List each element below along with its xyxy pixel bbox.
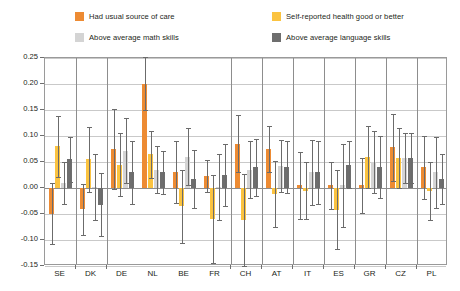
error-bar-CZ-series3 — [411, 133, 412, 183]
error-bar-cap-lower — [81, 235, 86, 236]
error-bar-cap-lower — [112, 189, 117, 190]
legend-item[interactable]: Above average language skills — [272, 29, 390, 46]
error-bar-cap-upper — [192, 150, 197, 151]
x-axis-tick-label-CH: CH — [230, 269, 261, 278]
error-bar-cap-upper — [112, 109, 117, 110]
x-axis-tick-label-FR: FR — [199, 269, 230, 278]
error-bar-DK-series1 — [89, 127, 90, 193]
y-axis-tick-label: 0.05 — [2, 157, 38, 165]
error-bar-cap-upper — [155, 146, 160, 147]
x-axis-tick-label-GR: GR — [354, 269, 385, 278]
legend-swatch-dark-gray — [272, 33, 281, 42]
group-separator — [386, 58, 387, 264]
x-axis-tick-label-NL: NL — [137, 269, 168, 278]
error-bar-cap-lower — [273, 227, 278, 228]
error-bar-BE-series0 — [176, 141, 177, 202]
error-bar-cap-lower — [155, 193, 160, 194]
legend-item[interactable]: Had usual source of care — [75, 8, 175, 25]
error-bar-cap-upper — [335, 170, 340, 171]
y-axis-tick-mark — [40, 265, 44, 266]
error-bar-ES-series3 — [349, 141, 350, 188]
error-bar-cap-lower — [68, 182, 73, 183]
error-bar-cap-upper — [236, 115, 241, 116]
error-bar-DE-series1 — [120, 133, 121, 195]
error-bar-cap-lower — [143, 110, 148, 111]
error-bar-NL-series0 — [145, 57, 146, 110]
error-bar-cap-lower — [242, 266, 247, 267]
error-bar-cap-upper — [124, 118, 129, 119]
group-separator — [262, 58, 263, 264]
x-axis-tick-mark — [354, 265, 355, 269]
error-bar-cap-upper — [347, 141, 352, 142]
error-bar-cap-lower — [130, 204, 135, 205]
error-bar-cap-lower — [335, 249, 340, 250]
error-bar-GR-series0 — [362, 158, 363, 213]
error-bar-AT-series0 — [269, 126, 270, 173]
error-bar-cap-upper — [273, 161, 278, 162]
error-bar-SE-series1 — [58, 116, 59, 176]
error-bar-cap-upper — [93, 154, 98, 155]
error-bar-cap-upper — [391, 114, 396, 115]
error-bar-ES-series2 — [343, 144, 344, 227]
error-bar-FR-series3 — [225, 144, 226, 206]
error-bar-cap-upper — [68, 137, 73, 138]
error-bar-cap-upper — [428, 162, 433, 163]
error-bar-cap-lower — [99, 236, 104, 237]
error-bar-cap-lower — [180, 243, 185, 244]
legend-item-label: Had usual source of care — [89, 12, 175, 21]
error-bar-cap-upper — [56, 116, 61, 117]
error-bar-NL-series2 — [157, 146, 158, 193]
error-bar-CH-series3 — [256, 139, 257, 196]
error-bar-cap-lower — [285, 193, 290, 194]
error-bar-GR-series1 — [368, 126, 369, 188]
error-bar-cap-lower — [161, 194, 166, 195]
error-bar-PL-series2 — [436, 137, 437, 208]
error-bar-GR-series3 — [380, 136, 381, 198]
y-axis-tick-label: 0.00 — [2, 183, 38, 191]
error-bar-IT-series0 — [300, 152, 301, 220]
error-bar-FR-series1 — [213, 175, 214, 263]
error-bar-DK-series0 — [83, 184, 84, 235]
error-bar-cap-upper — [87, 127, 92, 128]
legend-swatch-yellow — [272, 12, 281, 21]
group-separator — [293, 58, 294, 264]
y-axis-tick-label: 0.25 — [2, 53, 38, 61]
error-bar-GR-series2 — [374, 131, 375, 193]
error-bar-BE-series2 — [188, 128, 189, 185]
error-bar-cap-lower — [93, 220, 98, 221]
legend-item-label: Self-reported health good or better — [286, 12, 404, 21]
error-bar-cap-upper — [149, 131, 154, 132]
error-bar-cap-lower — [428, 220, 433, 221]
legend-item-label: Above average math skills — [89, 33, 179, 42]
y-axis-tick-label: -0.05 — [2, 209, 38, 217]
legend-item[interactable]: Self-reported health good or better — [272, 8, 404, 25]
group-separator — [417, 58, 418, 264]
error-bar-cap-upper — [403, 133, 408, 134]
error-bar-cap-lower — [360, 213, 365, 214]
error-bar-cap-upper — [217, 154, 222, 155]
error-bar-cap-lower — [211, 263, 216, 264]
legend-item[interactable]: Above average math skills — [75, 29, 179, 46]
x-axis-tick-mark — [261, 265, 262, 269]
error-bar-NL-series1 — [151, 131, 152, 178]
error-bar-cap-upper — [378, 136, 383, 137]
legend-swatch-light-gray — [75, 33, 84, 42]
error-bar-cap-lower — [366, 188, 371, 189]
x-axis-tick-label-DK: DK — [75, 269, 106, 278]
error-bar-IT-series3 — [318, 141, 319, 203]
error-bar-cap-upper — [310, 140, 315, 141]
error-bar-CH-series2 — [250, 141, 251, 198]
chart-root: Had usual source of careSelf-reported he… — [0, 0, 460, 291]
error-bar-cap-upper — [434, 137, 439, 138]
error-bar-SE-series2 — [64, 162, 65, 204]
error-bar-cap-lower — [50, 244, 55, 245]
error-bar-cap-lower — [298, 219, 303, 220]
legend-swatch-orange — [75, 12, 84, 21]
error-bar-cap-lower — [440, 204, 445, 205]
error-bar-cap-lower — [267, 172, 272, 173]
error-bar-SE-series0 — [52, 183, 53, 244]
y-axis-tick-label: -0.10 — [2, 235, 38, 243]
error-bar-cap-lower — [434, 208, 439, 209]
error-bar-cap-upper — [174, 141, 179, 142]
y-axis-tick-label: 0.20 — [2, 79, 38, 87]
